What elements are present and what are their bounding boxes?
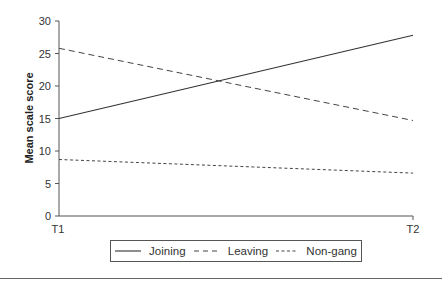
legend-label: Leaving: [228, 245, 268, 257]
solid-line-icon: [115, 249, 141, 253]
y-tick-label: 10: [39, 145, 51, 157]
y-tick-label: 15: [39, 113, 51, 125]
y-tick-label: 30: [39, 15, 51, 27]
y-tick-label: 5: [45, 178, 51, 190]
legend-item-joining: Joining: [115, 245, 185, 257]
y-tick-label: 20: [39, 80, 51, 92]
legend-item-non-gang: Non-gang: [276, 245, 357, 257]
y-tick-label: 0: [45, 210, 51, 222]
series-non-gang-line: [59, 160, 413, 174]
legend-item-leaving: Leaving: [194, 245, 268, 257]
y-ticks: 0 5 10 15 20 25 30: [39, 15, 59, 222]
y-axis-title: Mean scale score: [23, 72, 35, 163]
legend-label: Joining: [149, 245, 185, 257]
chart-legend: Joining Leaving Non-gang: [110, 240, 362, 262]
y-tick-label: 25: [39, 48, 51, 60]
bottom-divider: [0, 278, 442, 279]
series-leaving-line: [59, 48, 413, 120]
dotted-line-icon: [276, 249, 298, 253]
dashed-line-icon: [194, 249, 220, 253]
x-tick-label-t1: T1: [52, 223, 65, 235]
legend-label: Non-gang: [306, 245, 357, 257]
series-joining-line: [59, 35, 413, 118]
x-tick-label-t2: T2: [407, 223, 420, 235]
